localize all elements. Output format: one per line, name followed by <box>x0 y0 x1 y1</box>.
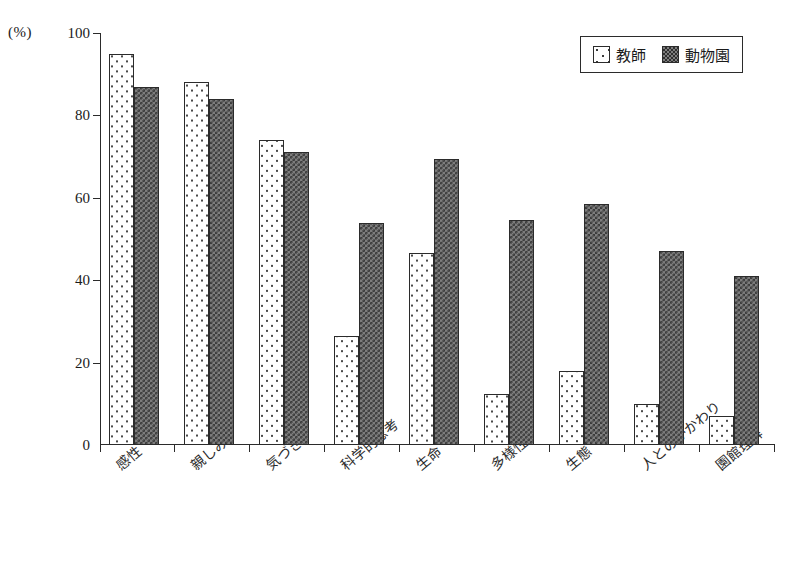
y-tick-label-80: 80 <box>46 107 90 124</box>
dotted-swatch-icon <box>593 46 610 63</box>
bar-zoo-6 <box>584 204 609 445</box>
y-tick-mark-20 <box>93 363 100 364</box>
x-label-4: 生命 <box>411 441 445 474</box>
x-label-0: 感性 <box>111 441 145 474</box>
bar-zoo-8 <box>734 276 759 445</box>
x-tick-mark-0 <box>100 445 101 452</box>
bar-zoo-4 <box>434 159 459 445</box>
legend-label-teacher: 教師 <box>616 44 646 65</box>
bar-teacher-2 <box>259 140 284 445</box>
y-tick-label-40: 40 <box>46 272 90 289</box>
x-tick-mark-3 <box>324 445 325 452</box>
bar-zoo-2 <box>284 152 309 445</box>
x-tick-mark-7 <box>624 445 625 452</box>
plot-area <box>100 33 775 445</box>
x-tick-mark-end <box>774 445 775 452</box>
bar-teacher-8 <box>709 416 734 445</box>
x-tick-mark-4 <box>399 445 400 452</box>
y-tick-label-60: 60 <box>46 189 90 206</box>
bar-teacher-5 <box>484 394 509 446</box>
y-tick-label-20: 20 <box>46 354 90 371</box>
y-tick-mark-40 <box>93 280 100 281</box>
y-axis-line <box>100 33 101 445</box>
bar-teacher-3 <box>334 336 359 445</box>
y-tick-label-100: 100 <box>46 25 90 42</box>
bar-zoo-1 <box>209 99 234 445</box>
x-tick-mark-1 <box>174 445 175 452</box>
y-tick-label-0: 0 <box>46 437 90 454</box>
bar-teacher-1 <box>184 82 209 445</box>
bar-zoo-7 <box>659 251 684 445</box>
x-tick-mark-2 <box>249 445 250 452</box>
legend-label-zoo: 動物園 <box>685 44 730 65</box>
x-label-6: 生態 <box>561 441 595 474</box>
x-tick-mark-6 <box>549 445 550 452</box>
bar-teacher-7 <box>634 404 659 445</box>
x-tick-mark-5 <box>474 445 475 452</box>
checkered-swatch-icon <box>662 46 679 63</box>
y-tick-mark-100 <box>93 33 100 34</box>
y-tick-mark-80 <box>93 115 100 116</box>
y-axis-tick-labels: 020406080100 <box>34 0 90 568</box>
bar-zoo-0 <box>134 87 159 445</box>
bar-zoo-3 <box>359 223 384 445</box>
bar-teacher-4 <box>409 253 434 445</box>
chart-legend: 教師 動物園 <box>580 36 743 73</box>
x-tick-mark-8 <box>699 445 700 452</box>
bar-teacher-6 <box>559 371 584 445</box>
legend-entry-teacher: 教師 <box>593 44 646 65</box>
bar-teacher-0 <box>109 54 134 445</box>
y-axis-unit-label: (%) <box>8 24 32 41</box>
bar-chart: (%) 020406080100 感性親しみ気づき科学的思考生命多様性生態人との… <box>0 0 790 568</box>
bar-zoo-5 <box>509 220 534 445</box>
y-tick-mark-60 <box>93 198 100 199</box>
legend-entry-zoo: 動物園 <box>662 44 730 65</box>
